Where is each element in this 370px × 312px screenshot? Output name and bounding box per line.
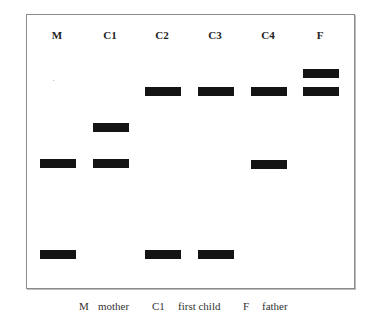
lane-label-c3: C3 [195,29,235,41]
band-m-6 [40,250,76,259]
lane-label-c1: C1 [90,29,130,41]
legend-key-c1: C1 [152,300,165,312]
legend-value-f: father [262,300,288,312]
lane-label-c2: C2 [142,29,182,41]
legend-value-m: mother [98,300,129,312]
band-c1-5 [93,159,129,168]
band-c3-2 [198,87,234,96]
band-m-5 [40,159,76,168]
band-c1-3 [93,123,129,132]
band-c3-6 [198,250,234,259]
legend-key-f: F [243,300,249,312]
band-c4-2 [251,87,287,96]
band-c2-6 [145,250,181,259]
gel-frame [26,14,355,289]
band-c4-5 [251,160,287,169]
gel-artifact [53,80,54,81]
legend-key-m: M [79,300,89,312]
legend-value-c1: first child [178,300,220,312]
band-f-2 [303,87,339,96]
lane-label-f: F [300,29,340,41]
band-c2-2 [145,87,181,96]
lane-label-c4: C4 [248,29,288,41]
band-f-1 [303,69,339,78]
lane-label-m: M [37,29,77,41]
